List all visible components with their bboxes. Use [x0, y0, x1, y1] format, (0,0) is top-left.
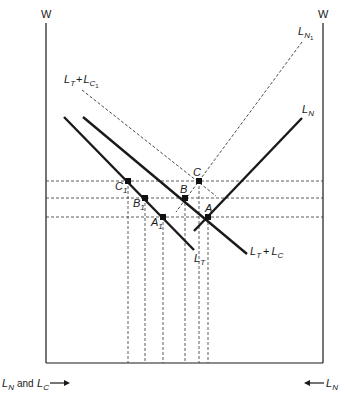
label-subsub: 1 — [95, 83, 99, 89]
label-point-a: A — [204, 202, 212, 214]
label-point-c: C — [193, 166, 201, 178]
svg-text:LN: LN — [2, 377, 14, 392]
bottom-left-label: LN and LC — [2, 377, 70, 392]
label-sub: N — [332, 383, 338, 392]
label-point-b: B — [180, 183, 187, 195]
label-main: A — [150, 216, 158, 228]
bottom-right-label: LN — [304, 377, 338, 392]
label-plus: + — [263, 245, 269, 257]
label-lt-plus-lc: LT+LC — [250, 245, 284, 260]
label-sub: 1 — [123, 186, 127, 195]
label-and: and — [17, 378, 34, 389]
label-sub: C — [278, 251, 284, 260]
labor-market-diagram: W W LN and LC LN LT+LC1 LN1 LN LT LT+LC … — [0, 0, 345, 403]
label-sub: T — [200, 258, 206, 267]
right-axis-label: W — [318, 8, 329, 20]
label-sub: N — [8, 383, 14, 392]
label-main: C — [115, 180, 123, 192]
arrow-left-head-icon — [304, 380, 310, 386]
label-sub: 1 — [140, 203, 144, 212]
label-sub: N — [308, 109, 314, 118]
curve-ln1 — [176, 42, 302, 212]
label-lt-plus-lc1: LT+LC1 — [64, 73, 99, 89]
point-b-marker — [182, 195, 188, 201]
label-sub: 1 — [158, 222, 162, 231]
point-a1-marker — [160, 214, 166, 220]
point-a-marker — [205, 214, 211, 220]
label-ln1: LN1 — [298, 25, 314, 41]
label-lt: LT — [194, 252, 206, 267]
label-main: B — [133, 197, 140, 209]
curve-lt-plus-lc — [83, 117, 247, 254]
point-c1-marker — [125, 178, 131, 184]
label-subsub: 1 — [310, 35, 314, 41]
point-b1-marker — [142, 195, 148, 201]
left-axis-label: W — [41, 8, 52, 20]
label-sub: C — [43, 383, 49, 392]
arrow-right-head-icon — [64, 380, 70, 386]
svg-text:LN: LN — [326, 377, 338, 392]
label-sub: T — [256, 251, 262, 260]
svg-text:LC: LC — [37, 377, 49, 392]
label-ln: LN — [302, 103, 314, 118]
curve-lt-plus-lc1 — [82, 90, 216, 196]
label-plus: + — [76, 73, 82, 85]
point-c-marker — [196, 178, 202, 184]
